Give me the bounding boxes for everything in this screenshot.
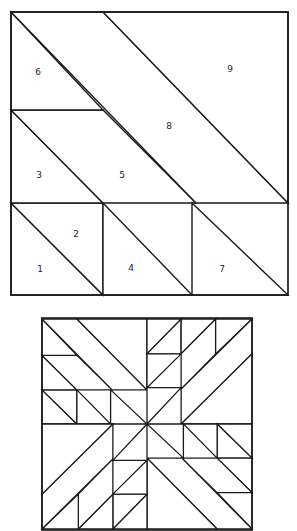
unit-piece-7: [192, 203, 288, 295]
unit-piece-label-7: 7: [219, 264, 225, 274]
block-quadrant-top-left: [42, 319, 147, 424]
block-piece-4: [147, 354, 181, 388]
unit-piece-4: [103, 203, 192, 295]
block-piece-7: [113, 424, 147, 460]
block-piece-4: [113, 460, 147, 494]
block-quadrant-bottom-left: [42, 424, 147, 529]
unit-block-diagram: 123456789: [0, 0, 297, 310]
block-piece-7: [147, 388, 181, 424]
unit-piece-label-1: 1: [37, 264, 43, 274]
block-piece-7: [147, 424, 183, 458]
figure-root: 123456789: [0, 0, 297, 531]
unit-piece-label-9: 9: [227, 64, 233, 74]
unit-piece-label-4: 4: [128, 263, 134, 273]
block-piece-7: [111, 390, 147, 424]
block-piece-4: [77, 390, 111, 424]
block-quadrant-top-right: [147, 319, 252, 424]
unit-piece-label-3: 3: [36, 170, 42, 180]
unit-piece-label-6: 6: [35, 67, 41, 77]
quilt-block-diagram: [0, 310, 297, 531]
unit-piece-label-8: 8: [166, 121, 172, 131]
block-piece-4: [183, 424, 217, 458]
unit-piece-label-2: 2: [73, 229, 79, 239]
unit-piece-label-5: 5: [119, 170, 125, 180]
block-quadrant-bottom-right: [147, 424, 252, 529]
